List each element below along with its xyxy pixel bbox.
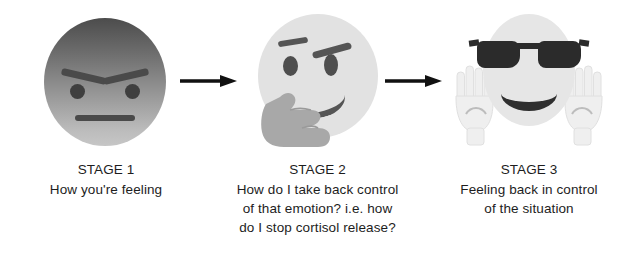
- sunglasses-lens-right: [538, 41, 581, 68]
- thinking-eye-left: [283, 56, 298, 76]
- stage-1-caption: STAGE 1 How you're feeling: [0, 160, 212, 199]
- thinking-face-icon: [254, 14, 382, 148]
- stage-3-line-1: Feeling back in control: [423, 180, 635, 199]
- stage-3-column: STAGE 3 Feeling back in control of the s…: [423, 0, 635, 262]
- stage-2-line-3: do I stop cortisol release?: [212, 218, 423, 237]
- thinking-eye-right: [324, 54, 338, 76]
- stage-3-caption: STAGE 3 Feeling back in control of the s…: [423, 160, 635, 218]
- angry-eye-right: [125, 84, 140, 99]
- stage-2-column: STAGE 2 How do I take back control of th…: [212, 0, 423, 262]
- stage-2-title: STAGE 2: [212, 160, 423, 179]
- stage-3-line-2: of the situation: [423, 199, 635, 218]
- sunglasses-icon: [477, 38, 581, 70]
- sunglasses-face-icon: [453, 14, 605, 148]
- infographic-canvas: STAGE 1 How you're feeling: [0, 0, 635, 262]
- stage-3-description: Feeling back in control of the situation: [423, 180, 635, 218]
- thinking-hand-icon: [256, 78, 342, 148]
- stage-2-description: How do I take back control of that emoti…: [212, 180, 423, 237]
- sunglasses-face-smile: [501, 76, 557, 111]
- stage-2-line-1: How do I take back control: [212, 180, 423, 199]
- angry-face-icon: [44, 18, 166, 146]
- stage-3-title: STAGE 3: [423, 160, 635, 179]
- angry-eye-left: [70, 84, 85, 99]
- sunglasses-lens-left: [477, 41, 520, 68]
- stage-2-line-2: of that emotion? i.e. how: [212, 199, 423, 218]
- stage-3-artwork: [423, 0, 635, 148]
- stage-1-title: STAGE 1: [0, 160, 212, 179]
- stage-2-caption: STAGE 2 How do I take back control of th…: [212, 160, 423, 237]
- stage-1-line-1: How you're feeling: [0, 180, 212, 199]
- stage-1-column: STAGE 1 How you're feeling: [0, 0, 212, 262]
- angry-mouth: [75, 115, 135, 121]
- stage-1-description: How you're feeling: [0, 180, 212, 199]
